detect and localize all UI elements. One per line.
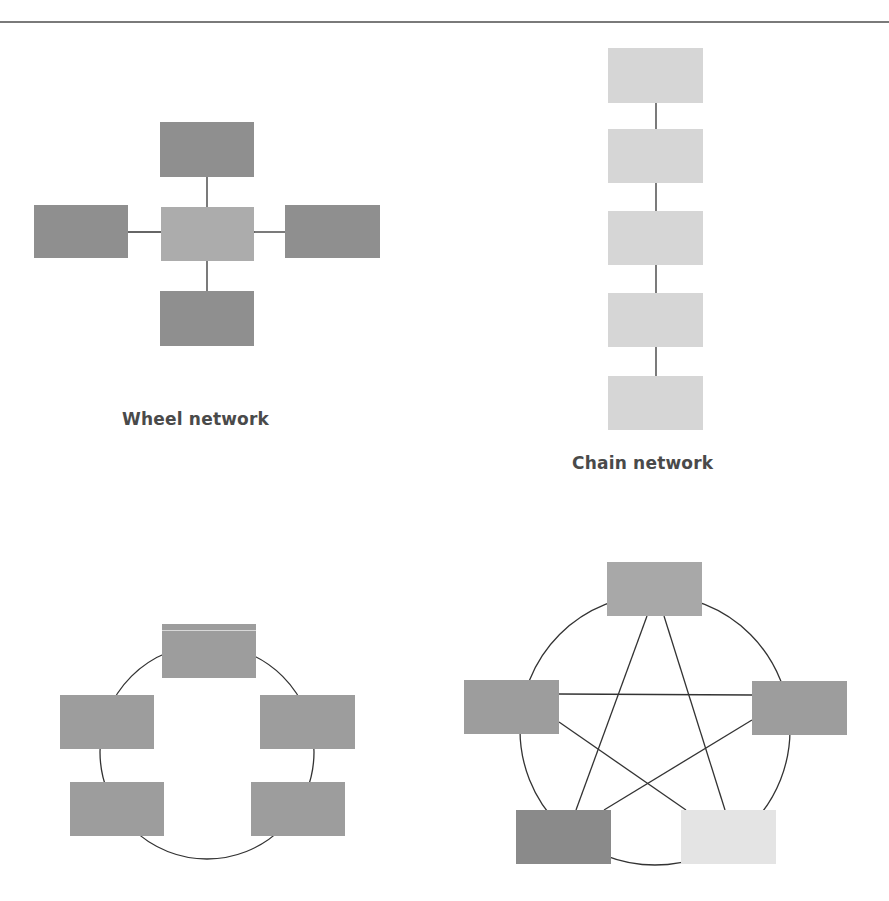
circle-node-left xyxy=(60,695,154,749)
wheel-node-bottom xyxy=(160,291,254,346)
star-node-bottom-left xyxy=(516,810,611,864)
star-line-top-bottomleft xyxy=(576,616,647,810)
wheel-node-center xyxy=(161,207,254,261)
chain-node-1 xyxy=(608,48,703,103)
star-line-right-bottomleft xyxy=(604,720,752,810)
wheel-node-left xyxy=(34,205,128,258)
star-line-top-bottomright xyxy=(664,616,725,810)
chain-node-2 xyxy=(608,129,703,183)
chain-network-label: Chain network xyxy=(572,453,713,473)
circle-node-top xyxy=(162,624,256,678)
chain-node-3 xyxy=(608,211,703,265)
connector-lines xyxy=(0,0,889,901)
circle-node-top-stripe xyxy=(162,630,256,631)
circle-node-right xyxy=(260,695,355,749)
star-node-bottom-right xyxy=(681,810,776,864)
star-line-left-bottomright xyxy=(559,722,686,810)
star-node-left xyxy=(464,680,559,734)
wheel-network-label: Wheel network xyxy=(122,409,269,429)
chain-node-5 xyxy=(608,376,703,430)
wheel-node-top xyxy=(160,122,254,177)
star-node-top xyxy=(607,562,702,616)
star-node-right xyxy=(752,681,847,735)
star-line-left-right xyxy=(559,694,752,695)
circle-node-bottom-left xyxy=(70,782,164,836)
circle-node-bottom-right xyxy=(251,782,345,836)
chain-node-4 xyxy=(608,293,703,347)
wheel-node-right xyxy=(285,205,380,258)
